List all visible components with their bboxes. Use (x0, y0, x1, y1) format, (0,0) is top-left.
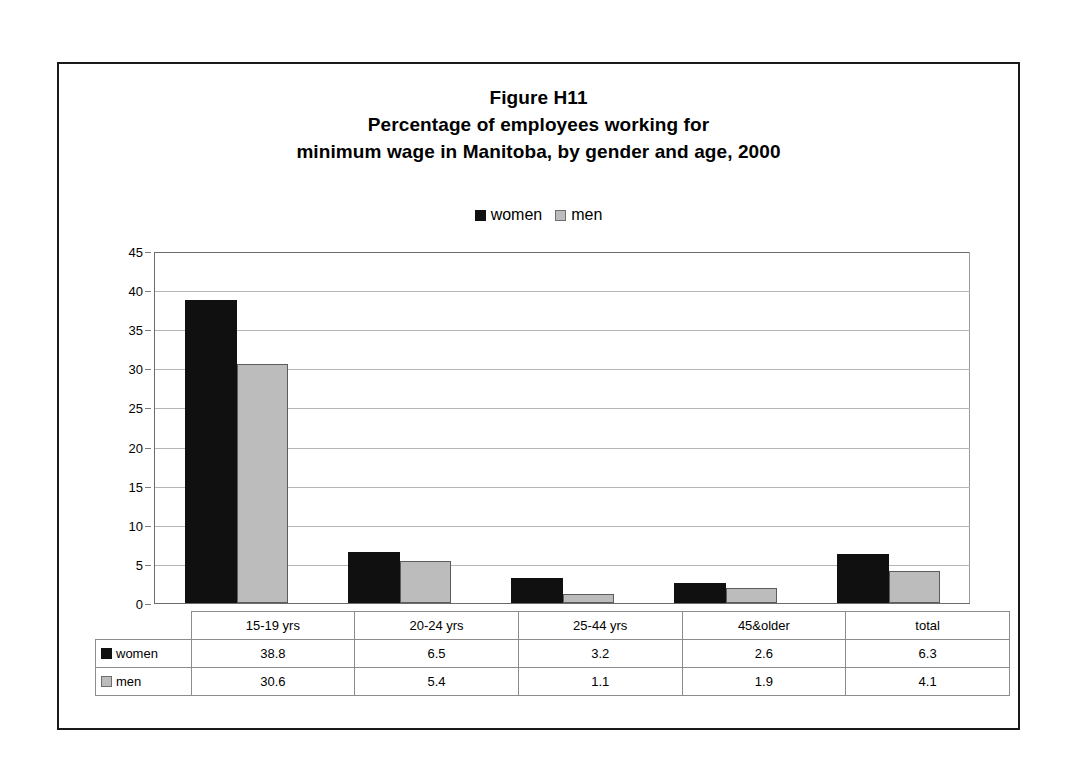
legend-swatch-men-icon (555, 210, 566, 221)
table-cell: 6.3 (846, 640, 1010, 668)
table-row-label-women: women (96, 640, 192, 668)
table-column-header: 20-24 yrs (355, 612, 519, 640)
y-tick-mark (145, 487, 151, 488)
bars-layer (155, 252, 970, 603)
y-tick-mark (145, 448, 151, 449)
y-tick-mark (145, 291, 151, 292)
table-cell: 4.1 (846, 668, 1010, 696)
data-table: 15-19 yrs20-24 yrs25-44 yrs45&oldertotal… (95, 611, 1010, 696)
y-tick-mark (145, 604, 151, 605)
legend-swatch-women-icon (475, 210, 486, 221)
bar-women-20-24-yrs (348, 552, 399, 603)
title-line-3: minimum wage in Manitoba, by gender and … (59, 138, 1018, 165)
y-tick-mark (145, 526, 151, 527)
bar-men-20-24-yrs (400, 561, 451, 603)
bar-group (155, 252, 318, 603)
y-tick-label: 20 (129, 440, 143, 455)
y-tick-mark (145, 369, 151, 370)
table-row-label-men: men (96, 668, 192, 696)
bar-group (644, 252, 807, 603)
table-cell: 5.4 (355, 668, 519, 696)
table-cell: 6.5 (355, 640, 519, 668)
bar-women-total (837, 554, 888, 603)
bar-group (481, 252, 644, 603)
bar-men-45-older (726, 588, 777, 603)
legend-label-men: men (571, 206, 602, 224)
title-line-2: Percentage of employees working for (59, 111, 1018, 138)
bar-women-45-older (674, 583, 725, 603)
table-row: men30.65.41.11.94.1 (96, 668, 1010, 696)
y-tick-label: 45 (129, 245, 143, 260)
y-tick-mark (145, 330, 151, 331)
bar-men-total (889, 571, 940, 603)
y-tick-label: 40 (129, 284, 143, 299)
bar-women-25-44-yrs (511, 578, 562, 603)
y-tick-label: 0 (136, 597, 143, 612)
plot-area (154, 252, 970, 604)
table-column-header: total (846, 612, 1010, 640)
table-cell: 1.9 (682, 668, 846, 696)
table-header-row: 15-19 yrs20-24 yrs25-44 yrs45&oldertotal (96, 612, 1010, 640)
table-cell: 2.6 (682, 640, 846, 668)
table-row-label-text: men (116, 674, 141, 689)
y-tick-label: 25 (129, 401, 143, 416)
table-column-header: 15-19 yrs (191, 612, 355, 640)
y-tick-label: 10 (129, 518, 143, 533)
y-tick-label: 35 (129, 323, 143, 338)
table-cell: 1.1 (518, 668, 682, 696)
y-tick-mark (145, 252, 151, 253)
table-column-header: 25-44 yrs (518, 612, 682, 640)
y-tick-label: 30 (129, 362, 143, 377)
bar-group (318, 252, 481, 603)
y-tick-label: 15 (129, 479, 143, 494)
table-row: women38.86.53.22.66.3 (96, 640, 1010, 668)
y-tick-mark (145, 565, 151, 566)
chart-legend: women men (59, 206, 1018, 224)
figure-frame: Figure H11 Percentage of employees worki… (57, 62, 1020, 730)
y-tick-mark (145, 408, 151, 409)
title-line-1: Figure H11 (59, 84, 1018, 111)
table-corner-cell (96, 612, 192, 640)
table-swatch-women-icon (101, 648, 112, 659)
bar-group (807, 252, 970, 603)
table-cell: 3.2 (518, 640, 682, 668)
table-swatch-men-icon (101, 676, 112, 687)
legend-entry-men: men (555, 206, 602, 224)
bar-men-25-44-yrs (563, 594, 614, 603)
y-axis: 051015202530354045 (95, 252, 151, 604)
legend-label-women: women (491, 206, 543, 224)
bar-women-15-19-yrs (185, 300, 236, 604)
legend-entry-women: women (475, 206, 543, 224)
bar-men-15-19-yrs (237, 364, 288, 603)
table-row-label-text: women (116, 646, 158, 661)
table-cell: 30.6 (191, 668, 355, 696)
table-column-header: 45&older (682, 612, 846, 640)
y-tick-label: 5 (136, 557, 143, 572)
plot-wrap: 051015202530354045 (95, 252, 1010, 614)
table-cell: 38.8 (191, 640, 355, 668)
chart-title: Figure H11 Percentage of employees worki… (59, 84, 1018, 165)
